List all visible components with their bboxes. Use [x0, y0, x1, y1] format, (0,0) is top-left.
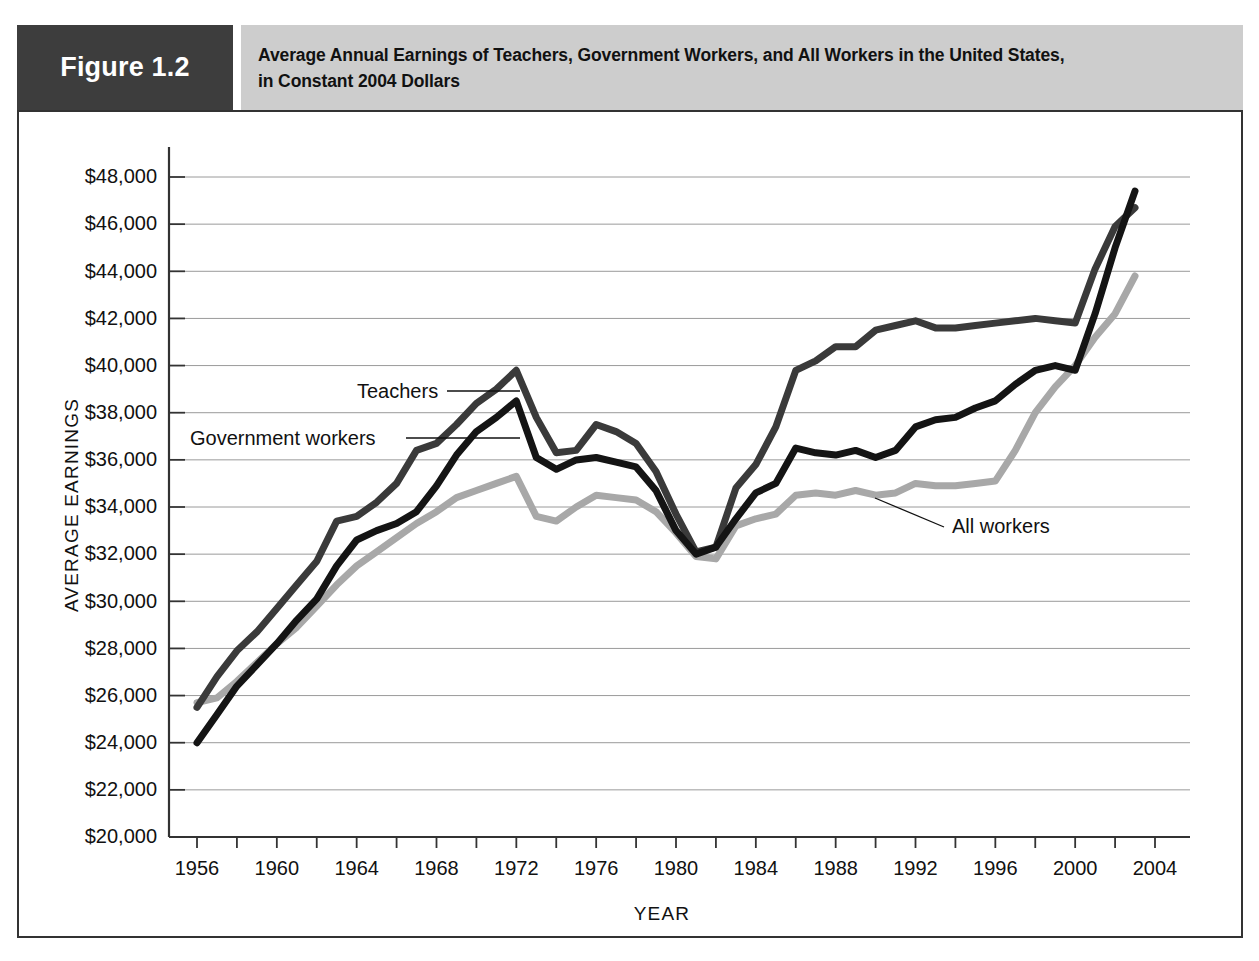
figure-number-label: Figure 1.2 [60, 52, 190, 83]
figure-header: Figure 1.2 Average Annual Earnings of Te… [17, 25, 1243, 110]
figure-title-box: Average Annual Earnings of Teachers, Gov… [241, 25, 1243, 110]
figure-title-line-1: Average Annual Earnings of Teachers, Gov… [258, 42, 1243, 68]
chart-frame [17, 110, 1243, 938]
figure-number-box: Figure 1.2 [17, 25, 233, 110]
figure-title-line-2: in Constant 2004 Dollars [258, 68, 1243, 94]
